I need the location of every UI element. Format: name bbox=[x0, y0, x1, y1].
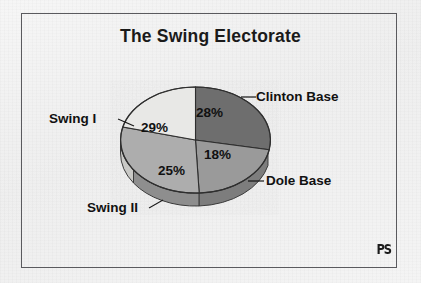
slice-value-clinton-base: 28% bbox=[196, 105, 223, 120]
slice-value-dole-base: 18% bbox=[204, 147, 231, 162]
ps-logo-mark: PS bbox=[377, 241, 391, 257]
chart-frame bbox=[21, 13, 397, 268]
slice-value-swing-i: 29% bbox=[141, 120, 168, 135]
slice-label-swing-ii: Swing II bbox=[87, 200, 138, 215]
slice-label-dole-base: Dole Base bbox=[266, 173, 331, 188]
slice-label-swing-i: Swing I bbox=[49, 111, 96, 126]
slice-label-clinton-base: Clinton Base bbox=[256, 89, 339, 104]
page-title: The Swing Electorate bbox=[0, 26, 421, 47]
slice-value-swing-ii: 25% bbox=[158, 163, 185, 178]
